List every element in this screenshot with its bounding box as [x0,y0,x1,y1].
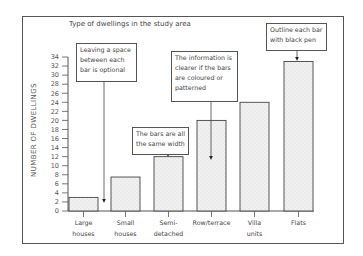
svg-text:28: 28 [51,80,59,88]
svg-text:12: 12 [51,153,59,161]
x-tick-label: Flats [274,217,324,228]
svg-text:6: 6 [55,180,59,188]
svg-text:4: 4 [55,189,59,197]
callout-spacing: Leaving a space between each bar is opti… [76,43,137,82]
callout-pattern: The information is clearer if the bars a… [171,51,238,102]
callout-outline: Outline each bar with black pen [266,23,327,51]
svg-text:32: 32 [51,62,59,70]
x-tick-label: Villa units [230,217,280,239]
svg-text:24: 24 [51,99,59,107]
svg-text:26: 26 [51,90,59,98]
svg-text:30: 30 [51,71,59,79]
svg-text:16: 16 [51,135,59,143]
svg-text:14: 14 [51,144,59,152]
svg-text:20: 20 [51,117,59,125]
callout-width: The bars are all the same width [132,127,189,155]
svg-text:34: 34 [51,53,59,61]
svg-text:22: 22 [51,108,59,116]
svg-text:10: 10 [51,162,59,170]
svg-text:0: 0 [55,207,59,215]
svg-text:8: 8 [55,171,59,179]
svg-text:18: 18 [51,126,59,134]
svg-text:2: 2 [55,198,59,206]
